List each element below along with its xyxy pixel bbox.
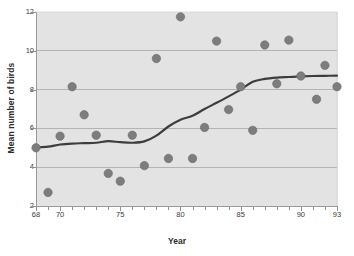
x-tick-mark bbox=[120, 207, 121, 211]
x-axis-title: Year bbox=[0, 236, 354, 246]
x-tick-label: 90 bbox=[291, 210, 311, 219]
x-tick-mark bbox=[301, 207, 302, 211]
x-tick-mark-minor bbox=[313, 207, 314, 210]
x-tick-mark-minor bbox=[253, 207, 254, 210]
data-point bbox=[44, 188, 52, 196]
data-point bbox=[176, 13, 184, 21]
data-point bbox=[321, 61, 329, 69]
data-point bbox=[285, 36, 293, 44]
data-point bbox=[116, 177, 124, 185]
x-tick-mark bbox=[180, 207, 181, 211]
x-tick-mark-minor bbox=[108, 207, 109, 210]
x-tick-mark bbox=[60, 207, 61, 211]
data-point bbox=[261, 41, 269, 49]
x-tick-mark-minor bbox=[205, 207, 206, 210]
x-tick-mark bbox=[241, 207, 242, 211]
x-tick-label: 93 bbox=[327, 210, 347, 219]
data-point bbox=[68, 82, 76, 90]
data-point bbox=[224, 105, 232, 113]
x-tick-mark-minor bbox=[265, 207, 266, 210]
x-tick-mark-minor bbox=[277, 207, 278, 210]
x-tick-mark-minor bbox=[144, 207, 145, 210]
data-point bbox=[92, 131, 100, 139]
x-tick-mark-minor bbox=[168, 207, 169, 210]
x-tick-label: 85 bbox=[231, 210, 251, 219]
data-point bbox=[56, 132, 64, 140]
x-tick-mark-minor bbox=[289, 207, 290, 210]
data-point bbox=[297, 72, 305, 80]
data-point bbox=[32, 144, 40, 152]
y-tick-mark bbox=[31, 51, 36, 52]
data-point bbox=[188, 154, 196, 162]
y-tick-mark bbox=[31, 12, 36, 13]
x-tick-mark-minor bbox=[84, 207, 85, 210]
y-tick-mark bbox=[31, 167, 36, 168]
data-point bbox=[200, 123, 208, 131]
data-point bbox=[164, 154, 172, 162]
x-tick-mark-minor bbox=[325, 207, 326, 210]
x-tick-mark bbox=[36, 207, 37, 211]
x-tick-mark-minor bbox=[193, 207, 194, 210]
y-tick-mark bbox=[31, 90, 36, 91]
data-point bbox=[140, 161, 148, 169]
x-tick-mark-minor bbox=[132, 207, 133, 210]
x-tick-mark-minor bbox=[96, 207, 97, 210]
data-point bbox=[236, 82, 244, 90]
x-tick-label: 80 bbox=[170, 210, 190, 219]
data-point bbox=[212, 37, 220, 45]
data-point bbox=[128, 131, 136, 139]
y-tick-mark bbox=[31, 128, 36, 129]
data-point bbox=[152, 54, 160, 62]
x-tick-mark-minor bbox=[217, 207, 218, 210]
data-point bbox=[273, 80, 281, 88]
data-point bbox=[312, 95, 320, 103]
data-point bbox=[104, 169, 112, 177]
x-tick-label: 75 bbox=[110, 210, 130, 219]
x-tick-label: 70 bbox=[50, 210, 70, 219]
data-point bbox=[249, 126, 257, 134]
x-tick-mark bbox=[337, 207, 338, 211]
x-tick-mark-minor bbox=[72, 207, 73, 210]
x-tick-label: 68 bbox=[26, 210, 46, 219]
x-tick-mark-minor bbox=[156, 207, 157, 210]
x-tick-mark-minor bbox=[48, 207, 49, 210]
data-point bbox=[333, 82, 341, 90]
x-tick-mark-minor bbox=[229, 207, 230, 210]
chart-figure: Mean number of birds 24681012 6870758085… bbox=[0, 0, 354, 256]
data-point bbox=[80, 111, 88, 119]
